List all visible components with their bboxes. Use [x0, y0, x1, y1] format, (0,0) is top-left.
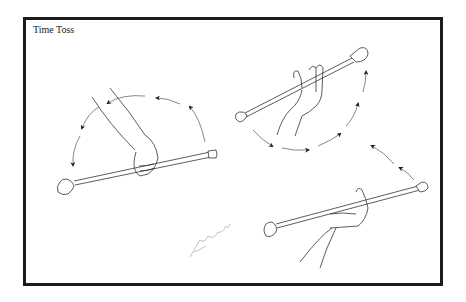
arm-hand-icon: [92, 88, 158, 176]
panel-2-baton-toss: [236, 48, 369, 151]
rotation-arrows-icon: [73, 96, 205, 165]
baton-icon: [264, 182, 428, 237]
panel-1-baton-grip: [57, 88, 217, 195]
catching-hand-icon: [300, 188, 368, 268]
open-hand-icon: [277, 65, 323, 136]
baton-icon: [57, 150, 217, 195]
time-toss-illustration: [0, 0, 466, 302]
catch-arrows-icon: [372, 146, 414, 180]
artist-signature-icon: [190, 224, 230, 257]
panel-3-baton-catch: [264, 146, 428, 268]
